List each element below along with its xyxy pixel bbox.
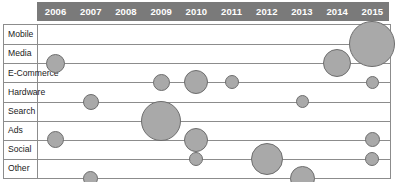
- year-header-cell-2012: 2012: [249, 2, 284, 21]
- row-label-media: Media: [8, 49, 31, 58]
- bubble-e-commerce-2009[interactable]: [153, 74, 170, 91]
- row-label-hardware: Hardware: [8, 88, 45, 97]
- bubble-hardware-2013[interactable]: [296, 95, 309, 108]
- year-header-cell-2015: 2015: [355, 2, 390, 21]
- bubble-hardware-2007[interactable]: [83, 94, 99, 110]
- year-header-bar: 2006200720082009201020112012201320142015: [37, 2, 390, 21]
- year-header-cell-2006: 2006: [38, 2, 73, 21]
- bubble-timeline-chart: 2006200720082009201020112012201320142015…: [0, 0, 400, 182]
- row-gridline: [4, 44, 390, 45]
- row-gridline: [4, 121, 390, 122]
- year-header-cell-2010: 2010: [179, 2, 214, 21]
- year-header-cell-2008: 2008: [108, 2, 143, 21]
- year-header-cell-2009: 2009: [144, 2, 179, 21]
- row-label-mobile: Mobile: [8, 30, 33, 39]
- year-header-cell-2011: 2011: [214, 2, 249, 21]
- bubble-e-commerce-2011[interactable]: [225, 75, 239, 89]
- year-header-cell-2014: 2014: [320, 2, 355, 21]
- row-label-search: Search: [8, 107, 35, 116]
- row-label-other: Other: [8, 164, 30, 173]
- row-label-social: Social: [8, 145, 31, 154]
- bubble-search-2009[interactable]: [141, 101, 181, 141]
- row-gridline: [4, 102, 390, 103]
- year-header-cell-2013: 2013: [284, 2, 319, 21]
- bubble-ads-2010[interactable]: [184, 128, 208, 152]
- row-label-ads: Ads: [8, 126, 23, 135]
- bubble-media-2006[interactable]: [46, 54, 65, 73]
- bubble-social-2012[interactable]: [251, 143, 283, 175]
- year-header-cell-2007: 2007: [73, 2, 108, 21]
- bubble-e-commerce-2015[interactable]: [366, 76, 379, 89]
